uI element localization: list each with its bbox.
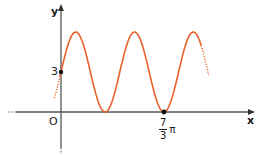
curve-dotted-start (54, 76, 60, 98)
x-tick-label-7-3-pi: 7 3 π (159, 118, 175, 141)
fraction-denominator: 3 (160, 130, 166, 141)
x-axis-label: x (247, 115, 254, 126)
pi-symbol: π (169, 125, 175, 135)
curve-dotted-end (201, 46, 209, 76)
y-axis-label: y (51, 6, 58, 17)
origin-label: O (49, 116, 58, 127)
point-min-7-3-pi (162, 110, 167, 115)
fraction-numerator: 7 (159, 118, 167, 130)
function-plot (0, 0, 259, 155)
y-tick-label-3: 3 (51, 66, 58, 77)
function-curve (60, 32, 201, 112)
point-y-intercept (59, 70, 63, 74)
y-axis-arrow-icon (58, 4, 64, 11)
